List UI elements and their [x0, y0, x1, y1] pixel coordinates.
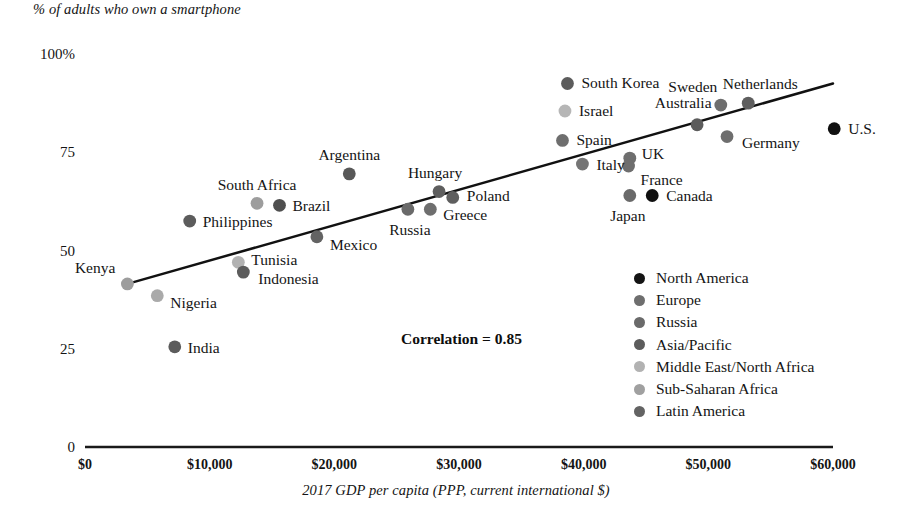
- legend-swatch-dot-icon: [634, 317, 645, 328]
- point-label: France: [641, 172, 683, 188]
- point-label: Philippines: [203, 214, 273, 230]
- legend-label: North America: [656, 269, 749, 287]
- data-point[interactable]: [559, 105, 572, 118]
- x-tick-label: $40,000: [561, 457, 607, 473]
- data-point[interactable]: [742, 97, 755, 110]
- y-tick-label: 25: [60, 340, 75, 357]
- point-label: Mexico: [330, 237, 377, 253]
- legend-item[interactable]: Russia: [634, 311, 814, 333]
- data-point[interactable]: [691, 118, 704, 131]
- legend-swatch-dot-icon: [634, 384, 645, 395]
- y-tick-label: 100%: [40, 46, 75, 63]
- point-label: Greece: [443, 207, 487, 223]
- data-point[interactable]: [446, 191, 459, 204]
- x-tick-label: $10,000: [187, 457, 233, 473]
- legend-label: Latin America: [656, 402, 745, 420]
- data-point[interactable]: [424, 203, 437, 216]
- point-label: Tunisia: [251, 253, 297, 269]
- legend-swatch-dot-icon: [634, 361, 645, 372]
- point-label: Brazil: [292, 199, 330, 215]
- x-tick-label: $0: [78, 457, 92, 473]
- point-label: Kenya: [75, 260, 115, 276]
- legend-item[interactable]: Latin America: [634, 400, 814, 422]
- point-label: South Korea: [581, 76, 659, 92]
- point-label: Italy: [596, 157, 624, 173]
- legend-label: Europe: [656, 291, 701, 309]
- data-point[interactable]: [310, 230, 323, 243]
- x-tick-label: $60,000: [810, 457, 856, 473]
- legend-item[interactable]: Asia/Pacific: [634, 334, 814, 356]
- data-point[interactable]: [433, 185, 446, 198]
- data-point[interactable]: [151, 289, 164, 302]
- point-label: South Africa: [218, 178, 297, 194]
- point-label: Nigeria: [170, 295, 216, 311]
- point-label: Australia: [655, 95, 712, 111]
- data-point[interactable]: [343, 167, 356, 180]
- point-label: Japan: [610, 209, 645, 225]
- data-point[interactable]: [273, 199, 286, 212]
- y-tick-label: 0: [68, 439, 76, 456]
- legend-swatch-dot-icon: [634, 406, 645, 417]
- legend-label: Asia/Pacific: [656, 336, 732, 354]
- legend-swatch-dot-icon: [634, 295, 645, 306]
- legend-item[interactable]: North America: [634, 267, 814, 289]
- data-point[interactable]: [576, 158, 589, 171]
- point-label: Argentina: [318, 147, 380, 163]
- point-label: Spain: [576, 133, 611, 149]
- data-point[interactable]: [121, 278, 134, 291]
- x-tick-label: $50,000: [686, 457, 732, 473]
- data-point[interactable]: [168, 340, 181, 353]
- point-label: U.S.: [848, 121, 876, 137]
- point-label: India: [188, 340, 220, 356]
- data-point[interactable]: [721, 130, 734, 143]
- data-point[interactable]: [561, 77, 574, 90]
- legend-item[interactable]: Sub-Saharan Africa: [634, 378, 814, 400]
- point-label: Israel: [579, 103, 613, 119]
- point-label: Russia: [389, 222, 430, 238]
- point-label: Sweden: [668, 79, 717, 95]
- x-tick-label: $30,000: [436, 457, 482, 473]
- x-tick-label: $20,000: [312, 457, 358, 473]
- data-point[interactable]: [714, 99, 727, 112]
- legend-item[interactable]: Middle East/North Africa: [634, 356, 814, 378]
- point-label: Germany: [742, 135, 800, 151]
- x-axis-title: 2017 GDP per capita (PPP, current intern…: [0, 482, 912, 499]
- data-point[interactable]: [623, 189, 636, 202]
- data-point[interactable]: [251, 197, 264, 210]
- data-point[interactable]: [556, 134, 569, 147]
- legend-label: Russia: [656, 313, 697, 331]
- data-point[interactable]: [828, 122, 841, 135]
- point-label: Netherlands: [723, 76, 798, 92]
- y-tick-label: 75: [60, 144, 75, 161]
- point-label: Hungary: [408, 165, 462, 181]
- data-point[interactable]: [183, 215, 196, 228]
- point-label: Indonesia: [258, 271, 318, 287]
- data-point[interactable]: [237, 266, 250, 279]
- legend: North AmericaEuropeRussiaAsia/PacificMid…: [634, 267, 814, 422]
- legend-label: Middle East/North Africa: [656, 358, 814, 376]
- point-label: Poland: [467, 189, 510, 205]
- point-label: UK: [642, 146, 664, 162]
- point-label: Canada: [666, 189, 712, 205]
- legend-label: Sub-Saharan Africa: [656, 380, 778, 398]
- scatter-chart: % of adults who own a smartphone 0255075…: [0, 0, 912, 512]
- data-point[interactable]: [646, 189, 659, 202]
- legend-swatch-dot-icon: [634, 339, 645, 350]
- data-point[interactable]: [401, 203, 414, 216]
- correlation-annotation: Correlation = 0.85: [401, 330, 522, 348]
- legend-swatch-dot-icon: [634, 273, 645, 284]
- y-tick-label: 50: [60, 242, 75, 259]
- legend-item[interactable]: Europe: [634, 289, 814, 311]
